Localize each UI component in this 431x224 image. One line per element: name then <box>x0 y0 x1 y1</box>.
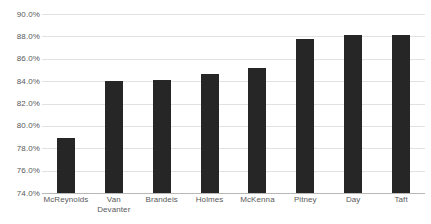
x-tick-label-1: Van Devanter <box>90 195 138 215</box>
bar-0 <box>57 138 75 193</box>
x-axis: McReynolds Van Devanter Brandeis Holmes … <box>42 195 425 224</box>
bar-6 <box>344 35 362 193</box>
y-tick-label: 90.0% <box>2 10 40 19</box>
y-tick-label: 86.0% <box>2 54 40 63</box>
bar-3 <box>201 74 219 193</box>
bars-layer <box>42 14 425 193</box>
x-tick-label-2: Brandeis <box>138 195 186 205</box>
y-axis: 90.0% 88.0% 86.0% 84.0% 82.0% 80.0% 78.0… <box>0 0 40 224</box>
bar-1 <box>105 81 123 193</box>
x-tick-label-3: Holmes <box>186 195 234 205</box>
bar-chart: 90.0% 88.0% 86.0% 84.0% 82.0% 80.0% 78.0… <box>0 0 431 224</box>
x-tick-label-7: Taft <box>377 195 425 205</box>
y-tick-label: 88.0% <box>2 32 40 41</box>
y-tick-label: 74.0% <box>2 189 40 198</box>
x-tick-label-0: McReynolds <box>42 195 90 205</box>
y-tick-label: 82.0% <box>2 99 40 108</box>
y-tick-label: 76.0% <box>2 166 40 175</box>
x-tick-label-5: Pitney <box>281 195 329 205</box>
y-tick-label: 80.0% <box>2 121 40 130</box>
bar-5 <box>296 39 314 193</box>
bar-4 <box>248 68 266 193</box>
y-tick-label: 84.0% <box>2 77 40 86</box>
bar-2 <box>153 80 171 193</box>
bar-7 <box>392 35 410 193</box>
x-tick-label-4: McKenna <box>234 195 282 205</box>
x-tick-label-6: Day <box>329 195 377 205</box>
y-tick-label: 78.0% <box>2 144 40 153</box>
x-axis-line <box>42 193 425 194</box>
